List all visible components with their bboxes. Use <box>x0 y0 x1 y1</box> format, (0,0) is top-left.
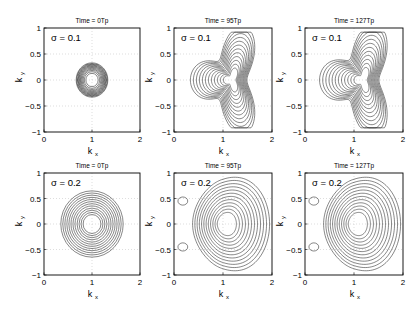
y-tick-label: 0 <box>167 76 172 85</box>
y-tick-label: −0.5 <box>155 246 171 255</box>
x-tick-label: 1 <box>221 135 226 144</box>
y-tick-label: 0.5 <box>160 50 172 59</box>
subplot-5: 01210.50−0.5−1Time = 95Tpσ = 0.2kxky <box>144 162 275 300</box>
y-tick-label: −0.5 <box>25 246 41 255</box>
x-tick-label: 2 <box>138 278 143 287</box>
x-tick-label: 0 <box>303 135 308 144</box>
y-tick-label: 1 <box>37 169 42 178</box>
x-axis-label: k <box>219 289 224 299</box>
y-axis-label-subscript: y <box>149 216 155 219</box>
y-axis-label-subscript: y <box>280 72 286 75</box>
x-tick-label: 0 <box>172 135 177 144</box>
y-tick-label: 1 <box>298 169 303 178</box>
sigma-annotation: σ = 0.1 <box>312 32 342 43</box>
x-tick-label: 2 <box>270 135 275 144</box>
x-tick-label: 0 <box>172 278 177 287</box>
y-tick-label: 0.5 <box>291 195 303 204</box>
y-tick-label: −0.5 <box>155 102 171 111</box>
y-tick-label: −0.5 <box>286 246 302 255</box>
sigma-annotation: σ = 0.2 <box>312 177 342 188</box>
y-tick-label: 0.5 <box>160 195 172 204</box>
y-tick-label: 0 <box>37 220 42 229</box>
ticks: 01210.50−0.5−1 <box>286 169 406 287</box>
x-tick-label: 1 <box>90 135 95 144</box>
grid <box>174 28 272 132</box>
x-axis-label-subscript: x <box>226 151 229 157</box>
sigma-annotation: σ = 0.1 <box>51 32 81 43</box>
contour-level <box>217 212 236 235</box>
contour-level <box>326 32 384 128</box>
y-axis-label-subscript: y <box>19 216 25 219</box>
y-tick-label: 0 <box>298 76 303 85</box>
contour-level <box>215 209 239 239</box>
y-axis-label: k <box>275 77 285 82</box>
x-tick-label: 1 <box>352 135 357 144</box>
subplot-title: Time = 127Tp <box>334 17 374 25</box>
x-axis-label-subscript: x <box>357 294 360 300</box>
grid <box>44 28 140 132</box>
y-tick-label: −1 <box>162 271 172 280</box>
x-tick-label: 0 <box>42 135 47 144</box>
subplot-title: Time = 0Tp <box>76 162 109 170</box>
grid <box>44 173 140 275</box>
contour-figure: 01210.50−0.5−1Time = 0Tpσ = 0.1kxky01210… <box>0 0 418 312</box>
y-axis-label: k <box>144 77 154 82</box>
contour-side-lobe <box>178 243 188 251</box>
y-axis-label-subscript: y <box>149 72 155 75</box>
contour-side-lobe <box>309 197 319 205</box>
y-tick-label: 0.5 <box>291 50 303 59</box>
x-tick-label: 2 <box>401 278 406 287</box>
x-tick-label: 0 <box>303 278 308 287</box>
subplot-3: 01210.50−0.5−1Time = 127Tpσ = 0.1kxky <box>275 17 406 157</box>
y-tick-label: −0.5 <box>25 102 41 111</box>
x-axis-label-subscript: x <box>95 294 98 300</box>
subplot-1: 01210.50−0.5−1Time = 0Tpσ = 0.1kxky <box>14 17 143 157</box>
y-tick-label: 0 <box>37 76 42 85</box>
y-axis-label: k <box>14 77 24 82</box>
x-tick-label: 0 <box>42 278 47 287</box>
y-tick-label: 1 <box>298 24 303 33</box>
y-tick-label: −0.5 <box>286 102 302 111</box>
y-tick-label: 1 <box>167 169 172 178</box>
sigma-annotation: σ = 0.2 <box>51 177 81 188</box>
x-axis-label-subscript: x <box>95 151 98 157</box>
x-axis-label: k <box>88 146 93 156</box>
ticks: 01210.50−0.5−1 <box>286 24 406 144</box>
subplot-title: Time = 95Tp <box>205 17 242 25</box>
y-tick-label: −1 <box>293 271 303 280</box>
subplot-4: 01210.50−0.5−1Time = 0Tpσ = 0.2kxky <box>14 162 143 300</box>
y-tick-label: 0.5 <box>30 50 42 59</box>
x-tick-label: 1 <box>90 278 95 287</box>
y-tick-label: 1 <box>37 24 42 33</box>
y-axis-label: k <box>14 221 24 226</box>
contour-level <box>348 212 367 235</box>
subplot-2: 01210.50−0.5−1Time = 95Tpσ = 0.1kxky <box>144 17 275 157</box>
x-tick-label: 2 <box>270 278 275 287</box>
y-tick-label: −1 <box>32 271 42 280</box>
y-axis-label: k <box>275 221 285 226</box>
contour-side-lobe <box>178 197 188 205</box>
subplot-6: 01210.50−0.5−1Time = 127Tpσ = 0.2kxky <box>275 162 406 300</box>
contour-side-lobe <box>309 243 319 251</box>
sigma-annotation: σ = 0.1 <box>181 32 211 43</box>
x-axis-label: k <box>350 289 355 299</box>
x-tick-label: 1 <box>221 278 226 287</box>
subplot-title: Time = 127Tp <box>334 162 374 170</box>
sigma-annotation: σ = 0.2 <box>181 177 211 188</box>
x-axis-label: k <box>350 146 355 156</box>
y-tick-label: 0 <box>167 220 172 229</box>
y-axis-label: k <box>144 221 154 226</box>
contour-level <box>346 209 370 239</box>
x-axis-label-subscript: x <box>357 151 360 157</box>
x-axis-label-subscript: x <box>226 294 229 300</box>
y-tick-label: −1 <box>162 128 172 137</box>
y-axis-label-subscript: y <box>19 72 25 75</box>
subplot-title: Time = 0Tp <box>76 17 109 25</box>
ticks: 01210.50−0.5−1 <box>155 24 275 144</box>
x-axis-label: k <box>219 146 224 156</box>
x-tick-label: 1 <box>352 278 357 287</box>
y-tick-label: 0 <box>298 220 303 229</box>
y-tick-label: −1 <box>32 128 42 137</box>
x-tick-label: 2 <box>401 135 406 144</box>
y-tick-label: 1 <box>167 24 172 33</box>
